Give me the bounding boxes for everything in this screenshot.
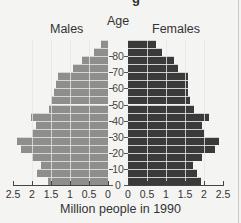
x-tick-label: 1.5 bbox=[44, 188, 59, 200]
bar-females-55-59 bbox=[128, 88, 188, 96]
x-tick-label: 0 bbox=[105, 188, 111, 200]
bar-females-25-29 bbox=[128, 137, 219, 145]
age-tick bbox=[124, 153, 128, 154]
age-tick-label: 60 bbox=[112, 82, 124, 94]
bar-males-85-89 bbox=[101, 40, 108, 48]
age-tick-label: 0 bbox=[115, 179, 121, 191]
grid-line bbox=[89, 40, 90, 185]
x-tick bbox=[128, 181, 129, 186]
age-tick-label: 70 bbox=[112, 66, 124, 78]
bar-females-60-64 bbox=[128, 80, 188, 88]
bar-males-35-39 bbox=[36, 121, 108, 129]
x-tick-label: 2.5 bbox=[6, 188, 21, 200]
grid-line bbox=[166, 40, 167, 185]
grid-line bbox=[70, 40, 71, 185]
x-tick bbox=[204, 181, 205, 186]
x-tick bbox=[32, 181, 33, 186]
bar-males-50-54 bbox=[51, 96, 108, 104]
age-tick-label: 20 bbox=[112, 147, 124, 159]
bar-males-80-84 bbox=[94, 48, 108, 56]
bar-females-5-9 bbox=[128, 169, 197, 177]
bar-females-85-89 bbox=[128, 40, 156, 48]
x-tick bbox=[147, 181, 148, 186]
population-pyramid-chart: 2.521.510.5000.511.522.50102030405060708… bbox=[0, 0, 241, 223]
age-tick-label: 40 bbox=[112, 115, 124, 127]
x-tick-label: 0.5 bbox=[82, 188, 97, 200]
age-tick-label: 50 bbox=[112, 99, 124, 111]
grid-line bbox=[185, 40, 186, 185]
age-tick-label: 80 bbox=[112, 50, 124, 62]
bar-females-75-79 bbox=[128, 56, 174, 64]
age-tick bbox=[124, 56, 128, 57]
age-tick-label: 10 bbox=[112, 163, 124, 175]
age-tick bbox=[124, 72, 128, 73]
bar-males-75-79 bbox=[82, 56, 108, 64]
x-axis-males bbox=[13, 185, 108, 186]
x-tick bbox=[89, 181, 90, 186]
age-tick bbox=[124, 169, 128, 170]
x-tick-label: 2.5 bbox=[216, 188, 231, 200]
age-tick bbox=[124, 137, 128, 138]
x-tick bbox=[185, 181, 186, 186]
age-tick bbox=[124, 121, 128, 122]
x-axis-females bbox=[128, 185, 223, 186]
age-tick bbox=[124, 105, 128, 106]
bar-males-20-24 bbox=[21, 145, 108, 153]
x-tick-label: 2 bbox=[29, 188, 35, 200]
x-tick-label: 2 bbox=[201, 188, 207, 200]
x-tick-label: 1.5 bbox=[178, 188, 193, 200]
bar-females-70-74 bbox=[128, 64, 178, 72]
grid-line bbox=[147, 40, 148, 185]
bar-females-65-69 bbox=[128, 72, 188, 80]
bar-males-25-29 bbox=[17, 137, 108, 145]
bar-males-60-64 bbox=[56, 80, 108, 88]
grid-line bbox=[51, 40, 52, 185]
bar-females-0-4 bbox=[128, 177, 201, 185]
x-tick bbox=[51, 181, 52, 186]
bar-females-80-84 bbox=[128, 48, 162, 56]
bar-females-10-14 bbox=[128, 161, 193, 169]
age-tick bbox=[109, 185, 113, 186]
bar-females-20-24 bbox=[128, 145, 215, 153]
grid-line bbox=[204, 40, 205, 185]
x-axis-label: Million people in 1990 bbox=[0, 202, 241, 216]
age-tick bbox=[124, 88, 128, 89]
bar-females-50-54 bbox=[128, 96, 190, 104]
x-tick-label: 0 bbox=[125, 188, 131, 200]
grid-line bbox=[32, 40, 33, 185]
x-tick bbox=[223, 181, 224, 186]
bar-males-5-9 bbox=[37, 169, 108, 177]
age-tick-label: 30 bbox=[112, 131, 124, 143]
x-tick-label: 1 bbox=[67, 188, 73, 200]
x-tick-label: 1 bbox=[163, 188, 169, 200]
x-tick bbox=[13, 181, 14, 186]
age-tick bbox=[124, 185, 128, 186]
bar-males-70-74 bbox=[73, 64, 108, 72]
x-tick-label: 0.5 bbox=[140, 188, 155, 200]
bar-males-45-49 bbox=[49, 105, 108, 113]
x-tick bbox=[70, 181, 71, 186]
bar-males-55-59 bbox=[54, 88, 108, 96]
bar-males-65-69 bbox=[58, 72, 108, 80]
x-tick bbox=[166, 181, 167, 186]
bar-females-40-44 bbox=[128, 113, 209, 121]
bar-males-0-4 bbox=[48, 177, 108, 185]
